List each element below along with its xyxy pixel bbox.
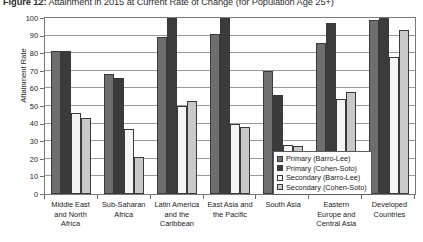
y-tick-label: 70 xyxy=(4,67,38,76)
bar xyxy=(51,51,61,194)
x-tickmark xyxy=(97,195,98,199)
y-tick-label: 10 xyxy=(4,172,38,181)
figure-container: Figure 12: Attainment in 2015 at Current… xyxy=(0,0,423,242)
bar xyxy=(61,51,71,194)
bar-group xyxy=(151,18,204,194)
legend-swatch xyxy=(277,175,283,181)
bar-group xyxy=(204,18,257,194)
legend-label: Secondary (Barro-Lee) xyxy=(286,173,360,182)
bar xyxy=(71,113,81,194)
x-tickmark xyxy=(203,195,204,199)
x-tick-label: Eastern Europe and Central Asia xyxy=(310,200,363,242)
legend-item: Secondary (Cohen-Soto) xyxy=(277,183,367,193)
y-tick-label: 80 xyxy=(4,49,38,58)
y-tick-label: 50 xyxy=(4,102,38,111)
legend-swatch xyxy=(277,156,283,162)
legend-item: Primary (Cohen-Soto) xyxy=(277,164,367,174)
bar xyxy=(210,34,220,194)
x-axis-labels: Middle East and North AfricaSub-Saharan … xyxy=(44,200,416,242)
bar xyxy=(187,101,197,194)
x-tickmark xyxy=(255,195,256,199)
x-tick-label: Latin America and the Caribbean xyxy=(150,200,203,242)
legend-label: Primary (Cohen-Soto) xyxy=(286,164,357,173)
x-tickmark xyxy=(414,195,415,199)
bar xyxy=(134,157,144,194)
x-tick-label: East Asia and the Pacific xyxy=(203,200,256,242)
figure-title-text: Attainment in 2015 at Current Rate of Ch… xyxy=(48,0,333,7)
x-axis-tickmarks xyxy=(44,195,416,199)
x-tick-label: Middle East and North Africa xyxy=(44,200,97,242)
bar xyxy=(240,127,250,194)
legend-label: Secondary (Cohen-Soto) xyxy=(286,183,367,192)
x-tick-label: South Asia xyxy=(257,200,310,242)
bar xyxy=(114,78,124,194)
bar xyxy=(379,18,389,194)
y-tick-label: 100 xyxy=(4,14,38,23)
y-tick-label: 30 xyxy=(4,137,38,146)
bar xyxy=(389,57,399,194)
legend-label: Primary (Barro-Lee) xyxy=(286,154,350,163)
legend-item: Primary (Barro-Lee) xyxy=(277,154,367,164)
y-tick-label: 60 xyxy=(4,84,38,93)
chart-legend: Primary (Barro-Lee)Primary (Cohen-Soto)S… xyxy=(273,151,372,195)
y-tick-label: 0 xyxy=(4,190,38,199)
bar xyxy=(230,124,240,194)
legend-swatch xyxy=(277,165,283,171)
bar xyxy=(81,118,91,194)
bar xyxy=(177,106,187,194)
x-tickmark xyxy=(308,195,309,199)
bar xyxy=(399,30,409,194)
x-tick-label: Developed Countries xyxy=(363,200,416,242)
x-tickmark xyxy=(44,195,45,199)
figure-title: Figure 12: Attainment in 2015 at Current… xyxy=(3,0,423,7)
bar xyxy=(220,18,230,194)
legend-item: Secondary (Barro-Lee) xyxy=(277,173,367,183)
x-tick-label: Sub-Saharan Africa xyxy=(97,200,150,242)
y-tick-label: 40 xyxy=(4,119,38,128)
x-tickmark xyxy=(361,195,362,199)
bar xyxy=(157,37,167,194)
bar xyxy=(124,129,134,194)
y-tick-label: 90 xyxy=(4,31,38,40)
bar xyxy=(167,18,177,194)
x-tickmark xyxy=(150,195,151,199)
y-tick-label: 20 xyxy=(4,155,38,164)
legend-swatch xyxy=(277,184,283,190)
bar xyxy=(104,74,114,194)
bar-group xyxy=(45,18,98,194)
bar xyxy=(263,71,273,194)
bar-group xyxy=(98,18,151,194)
